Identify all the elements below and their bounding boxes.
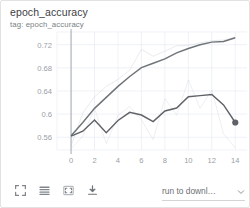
page-title: epoch_accuracy: [10, 6, 88, 19]
plot-area[interactable]: 0.560.60.640.680.7202468101214: [1, 28, 250, 173]
x-axis-tick-label: 14: [231, 156, 239, 165]
chevron-down-icon: [237, 182, 245, 200]
y-axis-tick-label: 0.56: [37, 133, 52, 142]
chart-card: epoch_accuracy tag: epoch_accuracy 0.560…: [0, 0, 250, 208]
y-axis-tick-label: 0.6: [41, 110, 52, 119]
run-to-download-select[interactable]: run to downl…: [162, 181, 245, 201]
expand-icon[interactable]: [10, 180, 30, 200]
run-to-download-value: run to downl…: [162, 186, 235, 196]
line-chart[interactable]: 0.560.60.640.680.7202468101214: [1, 28, 250, 173]
y-axis-tick-label: 0.68: [37, 64, 52, 73]
y-axis-tick-label: 0.72: [37, 41, 52, 50]
x-axis-tick-label: 4: [116, 156, 120, 165]
y-axis-tick-label: 0.64: [37, 87, 52, 96]
download-icon[interactable]: [82, 180, 102, 200]
x-axis-tick-label: 8: [163, 156, 167, 165]
x-axis-tick-label: 0: [69, 156, 73, 165]
series-endpoint-marker[interactable]: [232, 119, 238, 125]
data-table-icon[interactable]: [34, 180, 54, 200]
x-axis-tick-label: 6: [139, 156, 143, 165]
x-axis-tick-label: 12: [208, 156, 216, 165]
x-axis-tick-label: 10: [184, 156, 192, 165]
x-axis-tick-label: 2: [92, 156, 96, 165]
series-line[interactable]: [71, 94, 235, 136]
chart-header: epoch_accuracy tag: epoch_accuracy: [10, 6, 88, 30]
chart-toolbar: run to downl…: [1, 177, 250, 207]
fit-domain-icon[interactable]: [58, 180, 78, 200]
